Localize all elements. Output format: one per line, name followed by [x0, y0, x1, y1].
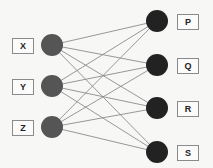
label-p: P [185, 18, 191, 27]
edge-x-q [52, 45, 157, 65]
edge-y-q [52, 65, 157, 86]
right-nodes [146, 10, 168, 163]
label-z: Z [20, 124, 26, 133]
label-box-p: P [177, 14, 199, 30]
label-q: Q [184, 62, 191, 71]
left-nodes [41, 34, 63, 138]
node-s [146, 141, 168, 163]
node-p [146, 10, 168, 32]
label-box-y: Y [12, 79, 34, 95]
node-x [41, 34, 63, 56]
label-r: R [185, 105, 192, 114]
edges [52, 21, 157, 152]
label-box-r: R [177, 101, 199, 117]
edge-y-r [52, 86, 157, 108]
node-y [41, 75, 63, 97]
label-box-q: Q [177, 58, 199, 74]
label-y: Y [20, 83, 26, 92]
label-box-z: Z [12, 120, 34, 136]
edge-x-p [52, 21, 157, 45]
label-box-x: X [12, 38, 34, 54]
node-q [146, 54, 168, 76]
label-s: S [185, 149, 191, 158]
node-r [146, 97, 168, 119]
edge-z-s [52, 127, 157, 152]
label-box-s: S [177, 145, 199, 161]
label-x: X [20, 42, 26, 51]
node-z [41, 116, 63, 138]
